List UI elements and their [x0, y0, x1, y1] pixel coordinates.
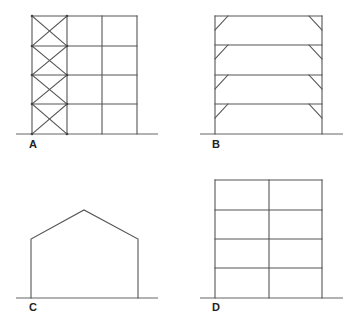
portal-frame-outline [31, 210, 138, 298]
knee-brace [309, 16, 322, 30]
knee-brace [309, 104, 322, 118]
figure-a-braced-frame [16, 15, 158, 136]
knee-brace [309, 45, 322, 59]
figure-label-c: C [29, 302, 37, 312]
figure-c-portal-frame [16, 210, 158, 298]
figure-b-knee-braced-frame [200, 16, 343, 134]
knee-brace [215, 45, 228, 59]
figure-label-a: A [29, 139, 37, 150]
knee-brace [215, 16, 228, 30]
knee-brace [215, 75, 228, 89]
figure-d-rigid-frame [200, 180, 343, 298]
figure-label-d: D [212, 302, 220, 312]
knee-brace [309, 75, 322, 89]
structural-frames-diagram [0, 0, 358, 312]
figure-label-b: B [212, 139, 220, 150]
knee-brace [215, 104, 228, 118]
